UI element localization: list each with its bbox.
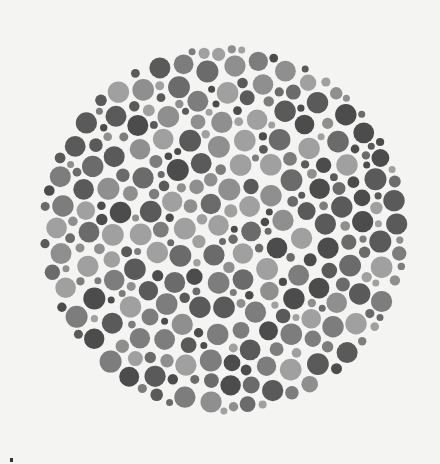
plate-dot	[40, 239, 49, 248]
plate-dot	[213, 101, 220, 108]
plate-dot	[330, 87, 342, 99]
plate-dot	[174, 148, 181, 155]
plate-dot	[309, 179, 330, 200]
plate-dot	[237, 299, 246, 308]
plate-dot	[206, 109, 213, 116]
plate-dot	[297, 105, 304, 112]
plate-dot	[181, 337, 197, 353]
plate-dot	[156, 293, 178, 315]
plate-dot	[168, 76, 190, 98]
plate-dot	[202, 130, 210, 138]
plate-dot	[365, 168, 387, 190]
plate-dot	[262, 380, 283, 401]
plate-dot	[389, 176, 401, 188]
plate-dot	[51, 243, 72, 264]
plate-dot	[155, 81, 164, 90]
plate-dot	[193, 259, 200, 266]
plate-dot	[281, 323, 303, 345]
plate-dot	[46, 218, 67, 239]
plate-dot	[259, 321, 278, 340]
plate-dot	[165, 152, 173, 160]
plate-dot	[207, 324, 228, 345]
plate-dot	[192, 235, 205, 248]
plate-dot	[279, 278, 287, 286]
plate-dot	[322, 341, 333, 352]
plate-dot	[91, 315, 98, 322]
plate-dot	[345, 313, 366, 334]
plate-dot	[130, 328, 150, 348]
plate-dot	[233, 322, 250, 339]
plate-dot	[108, 297, 115, 304]
plate-dot	[233, 106, 242, 115]
plate-dot	[150, 389, 163, 402]
plate-dot	[298, 202, 316, 220]
plate-dot	[41, 202, 50, 211]
plate-dot	[196, 61, 218, 83]
plate-dot	[175, 100, 183, 108]
plate-dot	[131, 69, 140, 78]
plate-dot	[76, 112, 97, 133]
plate-dot	[260, 185, 281, 206]
plate-dot	[74, 330, 83, 339]
plate-dot	[228, 235, 237, 244]
plate-dot	[153, 129, 174, 150]
plate-dot	[371, 291, 392, 312]
plate-dot	[370, 322, 379, 331]
plate-dot	[298, 192, 305, 199]
plate-dot	[354, 190, 371, 207]
plate-dot	[288, 265, 309, 286]
plate-dot	[191, 153, 212, 174]
plate-dot	[217, 82, 239, 104]
plate-dot	[249, 52, 268, 71]
plate-dot	[352, 211, 373, 232]
plate-dot	[305, 331, 321, 347]
plate-dot	[295, 115, 315, 135]
plate-dot	[353, 122, 374, 143]
plate-dot	[359, 236, 366, 243]
plate-dot	[95, 95, 107, 107]
plate-dot	[327, 131, 349, 153]
plate-dot	[307, 169, 317, 179]
plate-dot	[240, 90, 255, 105]
plate-dot	[264, 96, 274, 106]
plate-dot	[110, 202, 131, 223]
plate-dot	[343, 95, 350, 102]
plate-dot	[260, 154, 282, 176]
plate-dot	[255, 244, 264, 253]
plate-dot	[389, 166, 396, 173]
plate-dot	[369, 231, 391, 253]
plate-dot	[119, 367, 139, 387]
plate-dot	[128, 321, 136, 329]
plate-dot	[331, 196, 352, 217]
plate-dot	[208, 215, 229, 236]
plate-dot	[104, 270, 125, 291]
plate-dot	[370, 202, 382, 214]
plate-dot	[318, 133, 325, 140]
plate-dot	[154, 329, 175, 350]
plate-dot	[157, 93, 166, 102]
plate-dot	[152, 270, 163, 281]
plate-dot	[153, 222, 169, 238]
plate-dot	[158, 171, 165, 178]
plate-dot	[76, 243, 85, 252]
plate-dot	[229, 402, 238, 411]
plate-dot	[108, 81, 129, 102]
plate-dot	[375, 192, 382, 199]
plate-dot	[259, 401, 267, 409]
plate-dot	[83, 288, 105, 310]
plate-dot	[243, 179, 258, 194]
plate-dot	[243, 376, 260, 393]
plate-dot	[166, 214, 174, 222]
plate-dot	[240, 396, 256, 412]
plate-dot	[213, 297, 235, 319]
plate-dot	[377, 314, 384, 321]
plate-dot	[124, 258, 146, 280]
plate-dot	[237, 78, 248, 89]
plate-dot	[100, 351, 122, 373]
plate-dot	[218, 179, 240, 201]
plate-dot	[230, 289, 237, 296]
plate-dot	[220, 408, 227, 415]
plate-dot	[330, 173, 338, 181]
plate-dot	[159, 181, 170, 192]
plate-dot	[116, 340, 129, 353]
